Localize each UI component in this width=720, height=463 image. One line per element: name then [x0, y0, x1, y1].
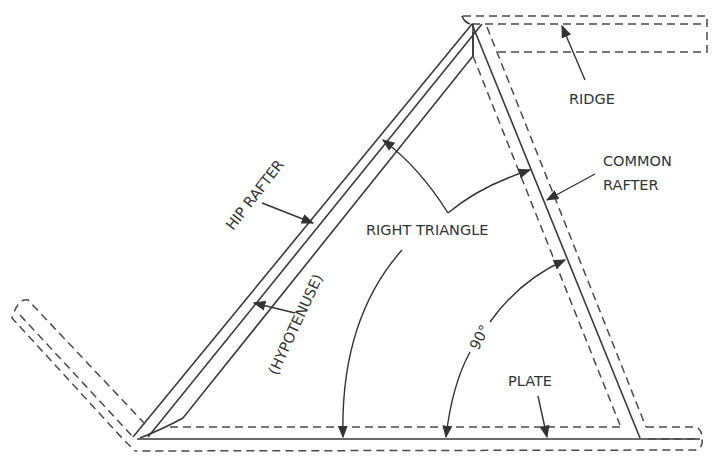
angle-label: 90°: [467, 322, 493, 352]
hip-rafter-diagram: RIDGE COMMON RAFTER HIP RAFTER RIGHT TRI…: [0, 0, 720, 463]
right-triangle-label: RIGHT TRIANGLE: [366, 222, 488, 238]
wall-plate: [135, 427, 702, 451]
common-rafter-label-line1: COMMON: [603, 153, 672, 169]
hypotenuse-label: (HYPOTENUSE): [265, 272, 326, 378]
hip-rafter-label: HIP RAFTER: [223, 157, 287, 233]
common-rafter-label-line2: RAFTER: [603, 177, 659, 193]
ridge-label: RIDGE: [569, 91, 615, 107]
left-wall: [12, 300, 145, 451]
ridge-board: [462, 16, 707, 52]
plate-label: PLATE: [508, 373, 552, 389]
common-rafter: [472, 24, 646, 438]
